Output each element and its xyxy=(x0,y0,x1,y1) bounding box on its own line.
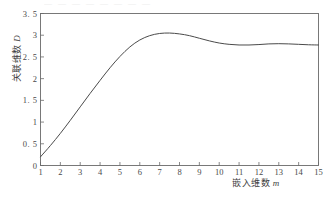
plot-svg xyxy=(0,0,330,200)
figure-container: — — — — — — — — 关联维数 D 嵌入维数 m 00. 511. 5… xyxy=(0,0,330,200)
data-series-group xyxy=(41,33,319,157)
axis-ticks xyxy=(41,14,319,166)
axes-frame xyxy=(41,14,319,166)
